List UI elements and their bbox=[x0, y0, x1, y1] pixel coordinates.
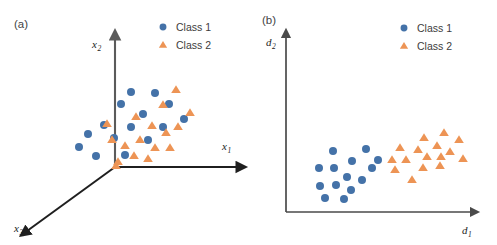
series-class-1 bbox=[315, 145, 382, 203]
data-point-triangle bbox=[147, 121, 157, 129]
legend-entry-class-1[interactable]: Class 1 bbox=[401, 22, 453, 34]
data-point-triangle bbox=[120, 141, 130, 149]
data-point-triangle bbox=[418, 163, 428, 171]
data-point-triangle bbox=[135, 135, 145, 143]
data-point-circle bbox=[340, 195, 348, 203]
svg-text:d2: d2 bbox=[266, 36, 276, 51]
data-point-triangle bbox=[173, 122, 183, 130]
legend-marker-triangle bbox=[159, 41, 167, 48]
d-1-axis-label: d1 bbox=[462, 224, 472, 239]
panel-a: (a)x2x1x3Class 1Class 2 bbox=[13, 18, 238, 237]
data-point-triangle bbox=[422, 152, 432, 160]
data-point-circle bbox=[348, 157, 356, 165]
legend-entry-class-2[interactable]: Class 2 bbox=[400, 40, 452, 52]
data-point-triangle bbox=[390, 165, 400, 173]
legend-label: Class 1 bbox=[417, 22, 452, 34]
data-point-triangle bbox=[143, 154, 153, 162]
data-point-circle bbox=[144, 136, 152, 144]
data-point-triangle bbox=[387, 155, 397, 163]
data-point-circle bbox=[362, 145, 370, 153]
x-2-axis-label: x2 bbox=[91, 38, 101, 53]
data-point-circle bbox=[84, 130, 92, 138]
panel-tag-b: (b) bbox=[262, 14, 276, 26]
data-point-circle bbox=[117, 100, 125, 108]
data-point-circle bbox=[75, 143, 83, 151]
data-point-circle bbox=[151, 89, 159, 97]
data-point-triangle bbox=[407, 175, 417, 183]
scatter-figure: (a)x2x1x3Class 1Class 2 (b)d2d1Class 1Cl… bbox=[0, 0, 497, 245]
data-point-triangle bbox=[401, 155, 411, 163]
data-point-circle bbox=[358, 176, 366, 184]
legend-label: Class 1 bbox=[176, 21, 211, 33]
data-point-triangle bbox=[458, 154, 468, 162]
data-point-circle bbox=[347, 186, 355, 194]
data-point-triangle bbox=[436, 152, 446, 160]
data-point-circle bbox=[316, 182, 324, 190]
data-point-triangle bbox=[150, 143, 160, 151]
data-point-circle bbox=[330, 164, 338, 172]
data-point-circle bbox=[92, 152, 100, 160]
data-point-triangle bbox=[129, 151, 139, 159]
data-point-triangle bbox=[165, 143, 175, 151]
data-point-circle bbox=[374, 156, 382, 164]
data-point-circle bbox=[139, 110, 147, 118]
legend-b: Class 1Class 2 bbox=[400, 22, 452, 52]
data-point-circle bbox=[332, 181, 340, 189]
x-3-axis-label: x3 bbox=[13, 222, 23, 237]
data-point-circle bbox=[329, 147, 337, 155]
panel-b: (b)d2d1Class 1Class 2 bbox=[262, 14, 472, 239]
svg-text:x1: x1 bbox=[221, 140, 231, 155]
data-point-triangle bbox=[439, 128, 449, 136]
legend-entry-class-2[interactable]: Class 2 bbox=[159, 39, 211, 51]
legend-entry-class-1[interactable]: Class 1 bbox=[160, 21, 212, 33]
data-point-circle bbox=[343, 173, 351, 181]
legend-label: Class 2 bbox=[176, 39, 211, 51]
data-point-triangle bbox=[395, 143, 405, 151]
x-1-axis-label: x1 bbox=[221, 140, 231, 155]
svg-text:d1: d1 bbox=[462, 224, 472, 239]
data-point-triangle bbox=[413, 145, 423, 153]
data-point-triangle bbox=[445, 147, 455, 155]
data-point-triangle bbox=[435, 161, 445, 169]
panel-tag-a: (a) bbox=[14, 18, 28, 30]
data-point-triangle bbox=[454, 135, 464, 143]
data-point-circle bbox=[368, 164, 376, 172]
legend-a: Class 1Class 2 bbox=[159, 21, 211, 51]
data-point-triangle bbox=[185, 108, 195, 116]
legend-marker-triangle bbox=[400, 42, 408, 49]
svg-text:x3: x3 bbox=[13, 222, 23, 237]
data-point-triangle bbox=[419, 133, 429, 141]
series-class-2 bbox=[102, 85, 195, 169]
x-3-axis bbox=[27, 167, 115, 231]
data-point-circle bbox=[180, 115, 188, 123]
data-point-triangle bbox=[432, 141, 442, 149]
data-point-circle bbox=[121, 151, 129, 159]
d-2-axis-label: d2 bbox=[266, 36, 276, 51]
data-point-triangle bbox=[171, 85, 181, 93]
data-point-circle bbox=[127, 88, 135, 96]
data-point-circle bbox=[127, 123, 135, 131]
legend-marker-circle bbox=[160, 24, 167, 31]
legend-marker-circle bbox=[401, 25, 408, 32]
data-point-circle bbox=[321, 194, 329, 202]
figure-container: (a)x2x1x3Class 1Class 2 (b)d2d1Class 1Cl… bbox=[0, 0, 497, 245]
svg-text:x2: x2 bbox=[91, 38, 101, 53]
series-class-2 bbox=[387, 128, 468, 183]
legend-label: Class 2 bbox=[417, 40, 452, 52]
data-point-circle bbox=[315, 164, 323, 172]
